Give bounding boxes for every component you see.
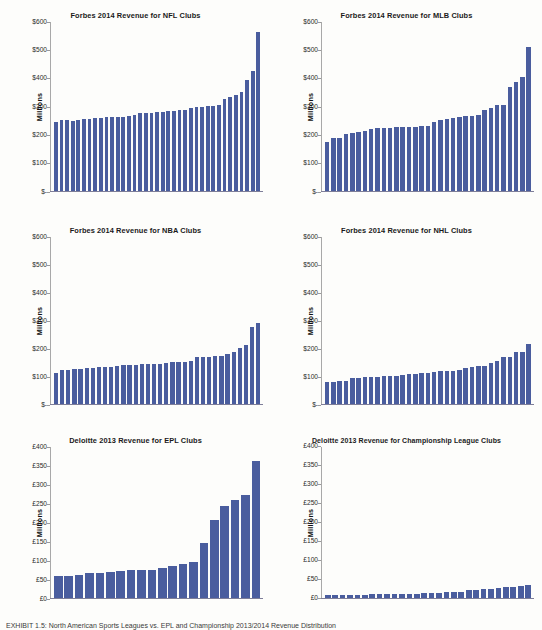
bar	[384, 594, 390, 598]
axis-area-nfl: $600$500$400$300$200$100$-	[50, 22, 263, 192]
y-tick-label: £350	[303, 461, 318, 468]
bar	[172, 111, 176, 191]
bar	[466, 590, 472, 597]
bar	[71, 121, 75, 192]
y-tick-label: $600	[303, 233, 318, 240]
bar	[109, 367, 113, 404]
y-axis-line-epl	[50, 447, 51, 599]
bar	[473, 590, 479, 598]
bar	[217, 105, 221, 191]
bar	[225, 354, 229, 404]
bar	[78, 369, 82, 405]
bar	[183, 362, 187, 405]
bar	[476, 115, 481, 191]
bar	[520, 352, 525, 405]
bar	[429, 593, 435, 598]
y-tick-label: £400	[303, 442, 318, 449]
bar	[375, 128, 380, 191]
bar	[426, 373, 431, 405]
bar	[451, 371, 456, 404]
bar	[514, 352, 519, 404]
bar	[105, 117, 109, 191]
bar	[206, 106, 210, 191]
bar	[496, 588, 502, 598]
x-axis-line-nba	[50, 404, 263, 405]
y-tick-label: $500	[32, 46, 47, 53]
bar	[463, 368, 468, 404]
y-tick-label: £200	[303, 518, 318, 525]
bar	[470, 367, 475, 405]
chart-panel-nhl: Forbes 2014 Revenue for NHL Clubs Millio…	[271, 215, 542, 425]
bar	[419, 126, 424, 191]
bar	[213, 356, 217, 404]
bar	[407, 374, 412, 404]
y-tick-label: £300	[32, 481, 47, 488]
bar	[526, 47, 531, 191]
bar	[65, 120, 69, 191]
bar	[54, 576, 63, 598]
axis-area-championship: £400£350£300£250£200£150£100£50£0	[321, 447, 534, 599]
chart-panel-nfl: Forbes 2014 Revenue for NFL Clubs Millio…	[0, 0, 271, 215]
bar	[337, 381, 342, 404]
y-tick-label: $600	[32, 18, 47, 25]
bar	[419, 373, 424, 404]
bar	[93, 118, 97, 191]
y-tick-label: £350	[32, 462, 47, 469]
bar	[110, 117, 114, 191]
bar	[106, 572, 115, 598]
bar	[432, 372, 437, 404]
y-tick-label: $100	[32, 373, 47, 380]
y-tick-label: £100	[32, 557, 47, 564]
bar	[164, 363, 168, 404]
bar	[195, 107, 199, 191]
bar	[438, 120, 443, 191]
bar	[121, 365, 125, 404]
bar	[200, 543, 209, 598]
bar	[458, 592, 464, 598]
bar	[96, 573, 105, 598]
bar	[340, 595, 346, 597]
bar	[436, 593, 442, 598]
bar	[85, 573, 94, 598]
y-tick-label: $500	[303, 261, 318, 268]
y-tick-label: $100	[303, 373, 318, 380]
y-tick-label: £150	[303, 537, 318, 544]
bar	[183, 110, 187, 191]
bar	[252, 461, 261, 598]
bar	[137, 570, 146, 598]
bar	[210, 520, 219, 598]
y-tick-label: $200	[32, 345, 47, 352]
bar	[256, 323, 260, 404]
bar	[482, 366, 487, 405]
bar	[234, 95, 238, 191]
bar-series-nba	[53, 237, 261, 404]
plot-wrap-nhl: Millions $600$500$400$300$200$100$-	[297, 237, 534, 405]
bar	[394, 376, 399, 404]
bar	[195, 357, 199, 404]
chart-panel-mlb: Forbes 2014 Revenue for MLB Clubs Millio…	[271, 0, 542, 215]
bar	[166, 111, 170, 191]
bar	[501, 357, 506, 404]
bar	[363, 131, 368, 191]
bar	[189, 562, 198, 598]
bar	[481, 589, 487, 597]
bar	[518, 586, 524, 597]
bar	[150, 113, 154, 191]
axis-area-nba: $600$500$400$300$200$100$-	[50, 237, 263, 405]
bar	[332, 595, 338, 597]
bar	[238, 348, 242, 404]
bar	[245, 80, 249, 191]
chart-panel-epl: Deloitte 2013 Revenue for EPL Clubs Mill…	[0, 425, 271, 615]
bar	[413, 374, 418, 404]
bar	[219, 356, 223, 404]
bar	[179, 564, 188, 598]
y-axis-line-championship	[321, 447, 322, 599]
y-tick-label: £0	[311, 594, 318, 601]
bar	[445, 119, 450, 191]
plot-wrap-epl: Millions £400£350£300£250£200£150£100£50…	[26, 447, 263, 599]
bar	[189, 108, 193, 191]
y-tick-label: £250	[32, 500, 47, 507]
bar	[414, 594, 420, 598]
bar	[445, 371, 450, 404]
y-tick-label: $600	[32, 233, 47, 240]
